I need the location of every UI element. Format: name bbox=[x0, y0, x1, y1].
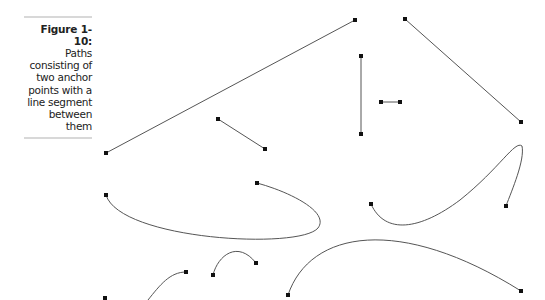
anchor-point-icon bbox=[263, 147, 267, 151]
curved-path bbox=[104, 181, 320, 239]
anchor-point-icon bbox=[216, 117, 220, 121]
path-segment bbox=[106, 183, 320, 239]
straight-path bbox=[403, 17, 523, 124]
path-segment bbox=[218, 119, 265, 149]
straight-path bbox=[359, 54, 363, 136]
anchor-point bbox=[103, 296, 107, 300]
path-segment bbox=[148, 272, 186, 300]
anchor-point-icon bbox=[398, 100, 402, 104]
path-segment bbox=[371, 145, 522, 225]
anchor-point-icon bbox=[255, 181, 259, 185]
curved-path bbox=[369, 145, 522, 225]
anchor-point-icon bbox=[353, 18, 357, 22]
path-segment bbox=[405, 19, 521, 122]
straight-path bbox=[379, 100, 402, 104]
anchor-point-icon bbox=[504, 204, 508, 208]
paths-diagram bbox=[0, 0, 545, 300]
anchor-point-icon bbox=[519, 289, 523, 293]
anchor-point-icon bbox=[286, 293, 290, 297]
anchor-point-icon bbox=[104, 193, 108, 197]
curved-path bbox=[148, 270, 188, 300]
anchor-point-icon bbox=[103, 296, 107, 300]
anchor-point-icon bbox=[104, 151, 108, 155]
anchor-point-icon bbox=[184, 270, 188, 274]
path-segment bbox=[288, 240, 521, 295]
anchor-point-icon bbox=[254, 261, 258, 265]
anchor-point-icon bbox=[519, 120, 523, 124]
path-segment bbox=[213, 251, 256, 275]
straight-path bbox=[216, 117, 267, 151]
straight-path bbox=[104, 18, 357, 155]
anchor-point-icon bbox=[359, 132, 363, 136]
anchor-point-icon bbox=[211, 273, 215, 277]
anchor-point-icon bbox=[403, 17, 407, 21]
curved-path bbox=[286, 240, 523, 297]
anchor-point-icon bbox=[379, 100, 383, 104]
anchor-point-icon bbox=[369, 202, 373, 206]
path-segment bbox=[106, 20, 355, 153]
curved-path bbox=[211, 251, 258, 277]
anchor-point-icon bbox=[359, 54, 363, 58]
